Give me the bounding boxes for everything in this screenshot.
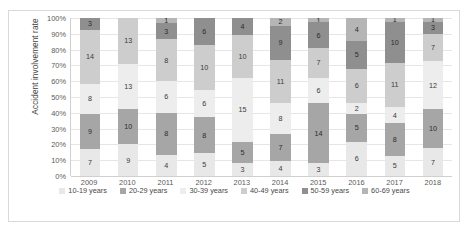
- legend-item[interactable]: 40-49 years: [241, 186, 289, 195]
- bar-segment[interactable]: 7: [308, 48, 329, 78]
- legend-item[interactable]: 30-39 years: [180, 186, 228, 195]
- bar-segment[interactable]: 10: [194, 45, 215, 90]
- bar-segment-label: 6: [317, 32, 321, 39]
- legend-item[interactable]: 50-59 years: [302, 186, 350, 195]
- bar-segment[interactable]: 7: [270, 134, 291, 161]
- bar-segment[interactable]: 5: [385, 156, 406, 176]
- legend-swatch-icon: [362, 188, 368, 194]
- bar-column[interactable]: 652654: [340, 18, 374, 176]
- y-tick-label: 10%: [51, 156, 66, 165]
- bar-column[interactable]: 9101313: [111, 18, 145, 176]
- bar-segment[interactable]: 8: [80, 84, 101, 115]
- bar-segment-label: 1: [431, 18, 435, 22]
- bar-segment-label: 14: [86, 53, 94, 60]
- bar-segment[interactable]: 4: [232, 18, 253, 35]
- bar-segment-label: 10: [124, 123, 132, 130]
- bar-segment[interactable]: 11: [270, 60, 291, 102]
- bar-segment[interactable]: 3: [423, 22, 444, 34]
- bar-segment-label: 6: [355, 82, 359, 89]
- plot-area: 7981439101313486831586106351510447811923…: [70, 18, 452, 176]
- legend-swatch-icon: [180, 188, 186, 194]
- bar-segment[interactable]: 4: [385, 107, 406, 123]
- bar-segment[interactable]: 1: [156, 18, 177, 23]
- bar-column[interactable]: 58411101: [378, 18, 412, 176]
- legend-item[interactable]: 60-69 years: [362, 186, 410, 195]
- bar-segment[interactable]: 6: [194, 90, 215, 117]
- bar-segment[interactable]: 13: [118, 18, 139, 64]
- bar-segment[interactable]: 3: [80, 18, 101, 30]
- bar-segment[interactable]: 6: [156, 81, 177, 113]
- bar-group: 7981439101313486831586106351510447811923…: [71, 18, 452, 176]
- chart-legend: 10-19 years20-29 years30-39 years40-49 y…: [0, 186, 469, 195]
- bar-segment[interactable]: 5: [194, 153, 215, 176]
- bar-segment[interactable]: 9: [118, 144, 139, 176]
- bar-segment[interactable]: 10: [385, 22, 406, 63]
- bar-segment[interactable]: 6: [308, 78, 329, 104]
- bar-segment[interactable]: 8: [270, 103, 291, 134]
- bar-segment[interactable]: 9: [80, 114, 101, 149]
- bar-segment[interactable]: 8: [385, 123, 406, 155]
- bar-segment[interactable]: 13: [118, 64, 139, 110]
- bar-segment[interactable]: 10: [423, 109, 444, 149]
- bar-column[interactable]: 798143: [73, 18, 107, 176]
- bar-segment[interactable]: 3: [232, 163, 253, 176]
- bar-segment-label: 11: [391, 81, 398, 88]
- bar-segment[interactable]: 8: [156, 113, 177, 155]
- bar-segment-label: 7: [317, 59, 321, 66]
- bar-segment[interactable]: 2: [270, 18, 291, 26]
- legend-item[interactable]: 10-19 years: [59, 186, 107, 195]
- bar-segment-label: 5: [355, 124, 359, 131]
- bar-column[interactable]: 586106: [187, 18, 221, 176]
- bar-segment[interactable]: 1: [385, 18, 406, 22]
- bar-segment-label: 8: [279, 115, 283, 122]
- bar-segment[interactable]: 10: [232, 35, 253, 78]
- bar-segment[interactable]: 9: [270, 26, 291, 61]
- bar-segment-label: 10: [200, 64, 208, 71]
- bar-segment[interactable]: 4: [156, 155, 177, 176]
- bar-segment[interactable]: 7: [423, 34, 444, 62]
- bar-segment[interactable]: 14: [308, 103, 329, 163]
- bar-segment[interactable]: 8: [194, 117, 215, 153]
- bar-segment[interactable]: 6: [194, 18, 215, 45]
- bar-segment[interactable]: 7: [80, 149, 101, 176]
- y-tick-label: 50%: [51, 93, 66, 102]
- bar-segment[interactable]: 6: [346, 69, 367, 103]
- bar-segment[interactable]: 11: [385, 63, 406, 108]
- bar-segment-label: 8: [164, 130, 168, 137]
- bar-segment-label: 8: [88, 95, 92, 102]
- bar-segment[interactable]: 12: [423, 61, 444, 108]
- legend-label: 50-59 years: [311, 186, 350, 195]
- bar-segment[interactable]: 14: [80, 30, 101, 84]
- bar-column[interactable]: 3146761: [301, 18, 335, 176]
- bar-segment[interactable]: 5: [232, 142, 253, 163]
- bar-segment-label: 8: [164, 57, 168, 64]
- bar-segment[interactable]: 4: [270, 161, 291, 176]
- bar-segment[interactable]: 6: [308, 22, 329, 48]
- bar-segment-label: 14: [315, 130, 323, 137]
- legend-item[interactable]: 20-29 years: [120, 186, 168, 195]
- bar-segment[interactable]: 15: [232, 78, 253, 142]
- bar-segment[interactable]: 1: [308, 18, 329, 22]
- legend-label: 20-29 years: [129, 186, 168, 195]
- bar-segment-label: 4: [355, 26, 359, 33]
- bar-column[interactable]: 486831: [149, 18, 183, 176]
- bar-segment[interactable]: 3: [156, 23, 177, 39]
- bar-segment-label: 6: [355, 155, 359, 162]
- bar-column[interactable]: 3515104: [225, 18, 259, 176]
- bar-segment[interactable]: 6: [346, 142, 367, 176]
- bar-segment[interactable]: 8: [156, 39, 177, 81]
- bar-column[interactable]: 4781192: [263, 18, 297, 176]
- bar-segment[interactable]: 2: [346, 103, 367, 114]
- bar-segment-label: 6: [202, 100, 206, 107]
- bar-segment[interactable]: 7: [423, 148, 444, 176]
- bar-segment[interactable]: 10: [118, 109, 139, 144]
- bar-segment[interactable]: 4: [346, 18, 367, 41]
- bar-segment[interactable]: 3: [308, 163, 329, 176]
- bar-segment-label: 8: [202, 132, 206, 139]
- bar-segment[interactable]: 5: [346, 114, 367, 142]
- bar-segment[interactable]: 5: [346, 41, 367, 69]
- bar-segment-label: 9: [88, 128, 92, 135]
- bar-segment[interactable]: 1: [423, 18, 444, 22]
- y-tick-label: 30%: [51, 124, 66, 133]
- bar-column[interactable]: 71012731: [416, 18, 450, 176]
